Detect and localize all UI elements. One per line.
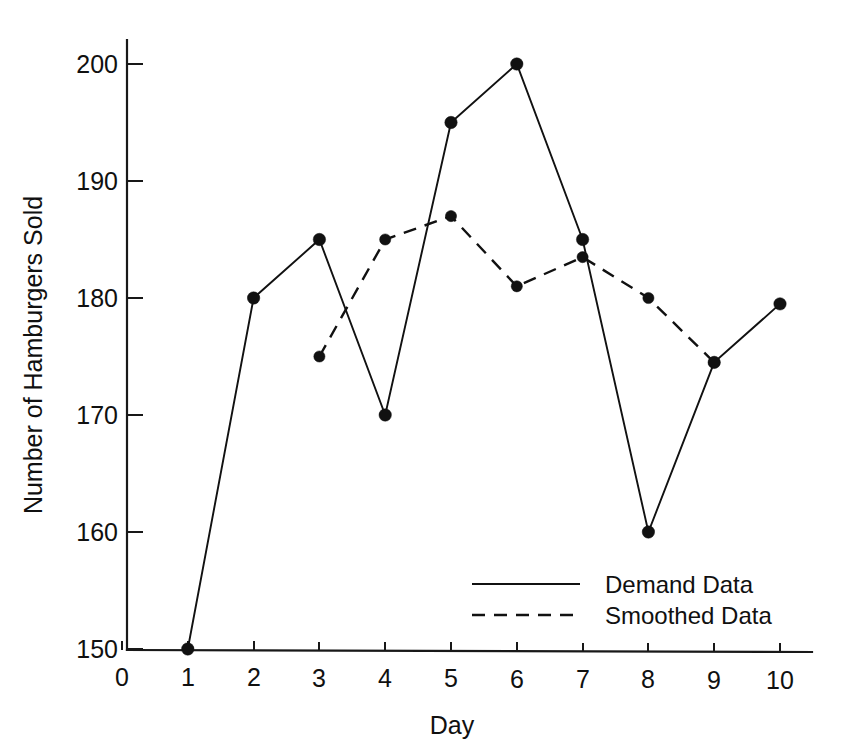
legend-label-demand-data: Demand Data [605,571,754,598]
y-tick-label-200: 200 [76,50,118,78]
x-tick-label-2: 2 [247,663,261,691]
y-axis-ticks [127,64,143,649]
data-point [182,643,194,655]
x-tick-label-9: 9 [707,666,721,694]
x-tick-label-8: 8 [641,665,655,693]
y-tick-label-150: 150 [76,635,118,663]
line-chart-canvas: 200 190 180 170 160 150 0 1 2 3 [0,0,847,752]
chart-legend: Demand Data Smoothed Data [472,571,772,629]
data-point [314,351,325,362]
data-point [643,292,654,303]
x-tick-label-7: 7 [576,665,590,693]
series-line-demand-data [188,64,780,649]
data-point [511,281,522,292]
y-axis-tick-labels: 200 190 180 170 160 150 [76,50,118,663]
x-tick-label-0: 0 [115,663,129,691]
x-tick-label-6: 6 [510,665,524,693]
chart-figure: 200 190 180 170 160 150 0 1 2 3 [0,0,847,752]
y-axis-title: Number of Hamburgers Sold [19,196,47,514]
data-point [576,233,588,245]
data-point [577,252,588,263]
x-tick-label-4: 4 [378,664,392,692]
data-point [511,58,523,70]
x-tick-label-3: 3 [312,664,326,692]
data-point [642,526,654,538]
legend-label-smoothed-data: Smoothed Data [605,602,772,629]
data-point [445,116,457,128]
data-point [379,409,391,421]
x-axis-tick-labels: 0 1 2 3 4 5 6 7 8 9 10 [115,663,794,694]
y-tick-label-170: 170 [76,401,118,429]
data-point [313,233,325,245]
data-point [380,234,391,245]
data-point [709,357,720,368]
x-axis-title: Day [430,711,475,739]
y-tick-label-190: 190 [76,167,118,195]
y-tick-label-180: 180 [76,284,118,312]
data-series-layer [182,58,787,655]
data-point [445,211,456,222]
data-point [247,292,259,304]
x-axis-line [127,650,812,652]
x-tick-label-1: 1 [181,663,195,691]
y-tick-label-160: 160 [76,518,118,546]
x-tick-label-5: 5 [444,664,458,692]
data-point [774,298,786,310]
x-tick-label-10: 10 [766,666,794,694]
